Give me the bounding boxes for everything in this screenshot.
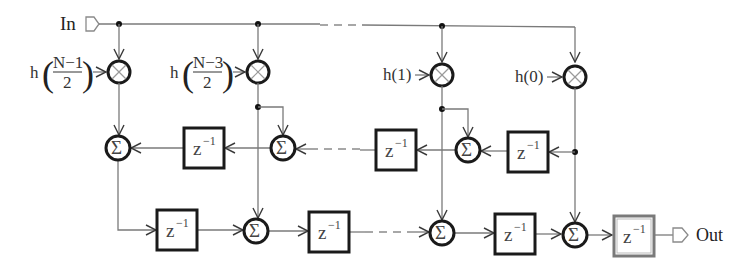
adder-bottom-3: Σ [563,223,587,247]
svg-text:z: z [504,224,512,245]
svg-text:z: z [166,220,174,241]
svg-text:−1: −1 [633,222,646,236]
coefficient-label-1: h ( N−1 2 ) [30,53,94,94]
adder-bottom-1: Σ [244,219,268,243]
delay-bottom-1: z−1 [157,210,197,250]
svg-text:−1: −1 [176,216,189,230]
multiplier-4 [564,66,586,88]
svg-text:): ) [82,54,94,94]
svg-text:−1: −1 [514,220,527,234]
delay-top-2: z−1 [376,130,416,170]
svg-text:h: h [170,63,179,82]
svg-text:z: z [385,140,393,161]
svg-text:): ) [222,54,234,94]
svg-text:−1: −1 [395,136,408,150]
input-label: In [60,13,76,34]
svg-text:N−3: N−3 [193,53,223,72]
svg-text:z: z [318,222,326,243]
adder-top-1: Σ [106,136,130,160]
output-port [673,228,688,242]
delay-top-1: z−1 [184,128,224,168]
svg-text:Σ: Σ [249,220,260,241]
svg-text:Σ: Σ [568,224,579,245]
svg-text:Σ: Σ [276,137,287,158]
svg-text:−1: −1 [203,134,216,148]
coefficient-label-3: h(1) [383,65,411,84]
svg-text:z: z [623,226,631,247]
svg-text:N−1: N−1 [53,53,83,72]
input-port [86,17,99,31]
svg-text:Σ: Σ [435,222,446,243]
adder-top-2: Σ [271,136,295,160]
svg-text:Σ: Σ [461,139,472,160]
delay-top-3: z−1 [508,132,548,172]
delay-output: z−1 [614,216,654,256]
delay-bottom-2: z−1 [309,212,349,252]
svg-text:−1: −1 [527,138,540,152]
svg-text:−1: −1 [328,218,341,232]
fir-filter-diagram: In h ( N−1 2 ) h ( N−3 2 ) h(1) h(0) [0,0,751,273]
svg-text:h: h [30,63,39,82]
coefficient-label-4: h(0) [515,67,543,86]
adder-bottom-2: Σ [430,221,454,245]
input-bus [99,21,575,62]
adder-top-3: Σ [456,138,480,162]
delay-bottom-3: z−1 [495,214,535,254]
svg-text:2: 2 [203,73,212,92]
svg-text:2: 2 [63,73,72,92]
multiplier-1 [108,61,130,83]
svg-text:Σ: Σ [111,137,122,158]
svg-text:z: z [517,142,525,163]
multiplier-3 [431,64,453,86]
svg-text:z: z [193,138,201,159]
multiplier-2 [247,61,269,83]
coefficient-label-2: h ( N−3 2 ) [170,53,234,94]
output-label: Out [696,225,723,245]
